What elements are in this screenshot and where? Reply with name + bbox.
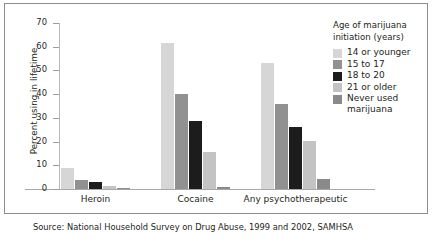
y-tick: 60 [5, 47, 59, 48]
legend-item: 14 or younger [333, 47, 433, 58]
x-axis-line [25, 189, 375, 190]
y-tick-mark [53, 189, 59, 190]
bar [161, 43, 174, 189]
bar [317, 179, 330, 189]
y-tick-label: 70 [36, 17, 47, 27]
bar-group [161, 23, 230, 189]
bar [289, 127, 302, 189]
legend-label: 15 to 17 [347, 59, 385, 70]
legend-item: 15 to 17 [333, 59, 433, 70]
legend-label: Never used marijuana [347, 93, 398, 114]
bar [303, 141, 316, 189]
legend-swatch [333, 60, 342, 69]
y-tick-label: 0 [42, 183, 47, 193]
legend-swatch [333, 83, 342, 92]
y-tick: 40 [5, 94, 59, 95]
y-tick-label: 20 [36, 136, 47, 146]
legend-title: Age of marijuana initiation (years) [333, 20, 429, 43]
bar [175, 94, 188, 189]
legend-item: 18 to 20 [333, 70, 433, 81]
bar [275, 104, 288, 189]
y-tick: 10 [5, 165, 59, 166]
y-tick-label: 30 [36, 112, 47, 122]
x-axis-group-label: Any psychotherapeutic [221, 194, 370, 204]
y-tick: 20 [5, 142, 59, 143]
y-tick-label: 60 [36, 41, 47, 51]
bar [75, 180, 88, 189]
legend-label: 14 or younger [347, 47, 411, 58]
bar [217, 187, 230, 189]
y-tick-label: 40 [36, 88, 47, 98]
bar [261, 63, 274, 189]
bar-group [261, 23, 330, 189]
bar [89, 182, 102, 189]
y-tick-label: 10 [36, 159, 47, 169]
y-tick-label: 50 [36, 64, 47, 74]
legend-swatch [333, 49, 342, 58]
chart-figure: Percent using in lifetime 70605040302010… [0, 0, 435, 245]
y-tick: 50 [5, 70, 59, 71]
bar [117, 188, 130, 189]
legend-item: Never used marijuana [333, 93, 433, 114]
legend-swatch [333, 72, 342, 81]
bar [203, 152, 216, 189]
legend-item: 21 or older [333, 82, 433, 93]
legend-label: 18 to 20 [347, 70, 385, 81]
bar [61, 168, 74, 189]
bar [103, 186, 116, 189]
y-tick: 30 [5, 118, 59, 119]
bar-group [61, 23, 130, 189]
legend-label: 21 or older [347, 82, 396, 93]
y-tick: 70 [5, 23, 59, 24]
source-note: Source: National Household Survey on Dru… [33, 222, 353, 232]
bar [189, 121, 202, 189]
legend-swatch [333, 95, 342, 104]
legend-items: 14 or younger15 to 1718 to 2021 or older… [333, 47, 433, 114]
chart-frame: Percent using in lifetime 70605040302010… [4, 3, 428, 214]
y-tick: 0 [5, 189, 59, 190]
chart-legend: Age of marijuana initiation (years) 14 o… [333, 20, 433, 115]
